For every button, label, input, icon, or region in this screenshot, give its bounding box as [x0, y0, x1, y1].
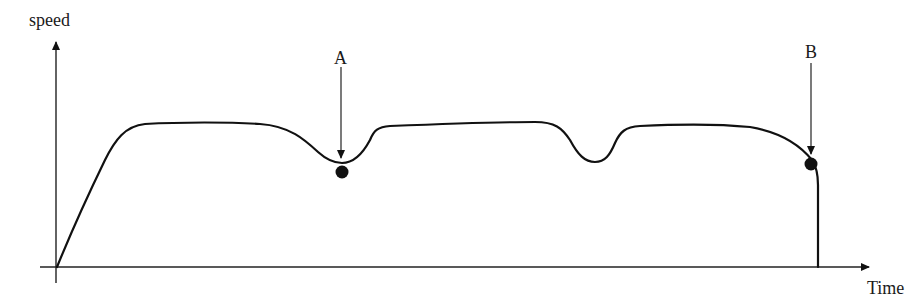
point-a-dot	[336, 166, 349, 179]
speed-curve	[57, 122, 818, 267]
x-axis-label: Time	[867, 279, 904, 297]
speed-time-diagram	[0, 0, 923, 308]
point-a-label: A	[334, 49, 347, 67]
y-axis-label: speed	[29, 11, 70, 29]
point-b-label: B	[805, 43, 817, 61]
point-b-dot	[805, 158, 818, 171]
